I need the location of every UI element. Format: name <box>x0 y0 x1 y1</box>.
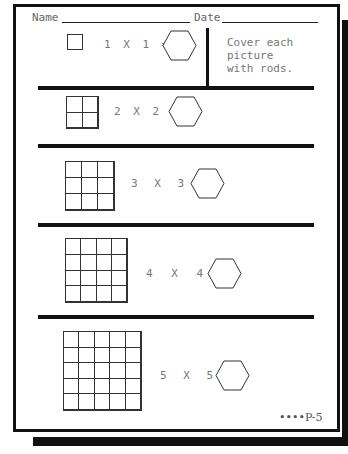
section-divider-3 <box>38 223 314 227</box>
page-shadow-bottom <box>33 437 348 446</box>
section-divider-1 <box>38 86 314 90</box>
answer-hexagon-2[interactable] <box>168 96 203 127</box>
section-divider-2 <box>38 144 314 148</box>
grid-2x2 <box>66 96 99 129</box>
name-label: Name <box>32 11 59 24</box>
answer-hexagon-4[interactable] <box>207 258 242 289</box>
name-field[interactable] <box>62 22 190 23</box>
instructions-text: Cover each picture with rods. <box>227 36 293 75</box>
page-shadow-right <box>342 20 348 446</box>
answer-hexagon-3[interactable] <box>190 168 225 199</box>
page-number: ••••P-5 <box>279 411 322 424</box>
answer-hexagon-5[interactable] <box>215 360 250 391</box>
grid-3x3 <box>65 161 115 211</box>
date-label: Date <box>194 11 221 24</box>
date-field[interactable] <box>222 22 318 23</box>
grid-5x5 <box>63 331 142 411</box>
grid-4x4 <box>65 238 128 303</box>
section-divider-4 <box>38 315 314 319</box>
answer-hexagon-1[interactable] <box>162 30 197 61</box>
grid-1x1 <box>67 34 83 50</box>
vertical-divider <box>206 28 209 89</box>
